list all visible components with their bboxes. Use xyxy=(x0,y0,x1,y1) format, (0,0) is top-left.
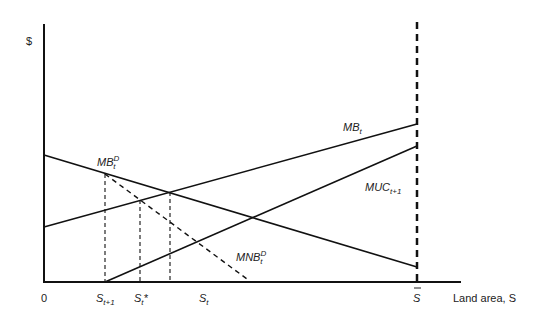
tick-s-bar: S xyxy=(413,292,421,304)
mnb-demand-label: MNBDt xyxy=(236,249,266,266)
tick-s-t1: St+1 xyxy=(96,292,115,307)
origin-label: 0 xyxy=(41,292,47,304)
muc-label: MUCt+1 xyxy=(365,181,401,196)
tick-s-star: St* xyxy=(134,292,149,307)
mb-demand-label: MBDt xyxy=(97,154,120,171)
economics-diagram: $ 0 St+1 St* St S Land area, S MBt MUCt+… xyxy=(0,0,544,324)
x-axis-label: Land area, S xyxy=(453,292,516,304)
mb-t-label: MBt xyxy=(343,121,363,136)
y-axis-label: $ xyxy=(26,35,32,47)
tick-s-t: St xyxy=(199,292,209,307)
